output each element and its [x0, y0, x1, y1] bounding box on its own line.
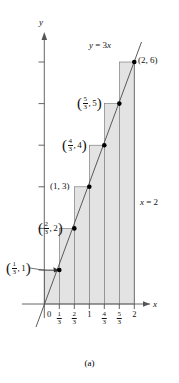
- y-axis-label: y: [39, 18, 43, 27]
- point-label-5-3-5: ( 5 3 , 5 ): [77, 96, 102, 111]
- fraction-1-3: 1 3: [12, 261, 18, 276]
- point-1-3-1: [57, 268, 62, 273]
- y-axis-ticks: [39, 62, 45, 270]
- paren-close: ): [97, 97, 102, 110]
- paren-open: (: [62, 139, 67, 152]
- paren-close: ): [82, 139, 87, 152]
- point-1-3pt: [87, 185, 92, 190]
- point-label-1-3-1: ( 1 3 , 1 ): [6, 261, 31, 276]
- point-label-2-3-2: ( 2 3 , 2 ): [38, 221, 63, 236]
- x-tick-label-0: 0: [47, 310, 51, 319]
- boundary-label-x-equals-2: x = 2: [140, 198, 158, 207]
- fraction-1-3-tick: 1 3: [57, 311, 62, 327]
- rectangle-4: [89, 145, 104, 304]
- x-axis-ticks: [59, 304, 134, 309]
- point-2-3-2: [72, 226, 77, 231]
- fraction-2-3-tick: 2 3: [72, 311, 77, 327]
- curve-label: y = 3x: [89, 41, 111, 50]
- point-label-2-6: (2, 6): [138, 56, 158, 65]
- paren-close: ): [26, 262, 31, 275]
- paren-close: ): [58, 222, 63, 235]
- point-4-3-4: [102, 143, 107, 148]
- fraction-5-3: 5 3: [83, 96, 89, 111]
- fraction-2-3: 2 3: [44, 221, 50, 236]
- fraction-4-3: 4 3: [68, 138, 74, 153]
- point-2-6: [132, 60, 137, 65]
- x-tick-label-2-3: 2 3: [72, 309, 77, 327]
- point-5-3-5: [117, 101, 122, 106]
- rectangle-6: [119, 62, 134, 304]
- rectangle-5: [104, 104, 119, 304]
- x-tick-label-4-3: 4 3: [102, 309, 107, 327]
- rectangle-2: [59, 228, 74, 304]
- x-tick-label-1-3: 1 3: [57, 309, 62, 327]
- paren-open: (: [6, 262, 11, 275]
- fraction-4-3-tick: 4 3: [102, 311, 107, 327]
- x-tick-label-5-3: 5 3: [117, 309, 122, 327]
- point-label-4-3-4: ( 4 3 , 4 ): [62, 138, 87, 153]
- paren-open: (: [38, 222, 43, 235]
- x-axis-label: x: [153, 300, 157, 309]
- riemann-sum-figure: y x y = 3x (2, 6) x = 2 ( 5 3 , 5 ) (: [0, 0, 179, 383]
- point-label-1-3: (1, 3): [50, 182, 70, 191]
- paren-open: (: [77, 97, 82, 110]
- fraction-5-3-tick: 5 3: [117, 311, 122, 327]
- x-tick-label-2: 2: [132, 310, 136, 319]
- figure-caption: (a): [0, 358, 179, 368]
- x-tick-label-1: 1: [87, 310, 91, 319]
